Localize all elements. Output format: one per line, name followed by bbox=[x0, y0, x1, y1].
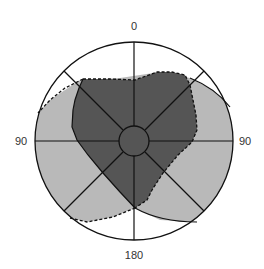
label-right: 90 bbox=[239, 135, 251, 147]
polar-diagram: 0 180 90 90 bbox=[0, 0, 264, 269]
center-circle bbox=[119, 126, 149, 156]
label-bottom: 180 bbox=[125, 249, 143, 261]
label-top: 0 bbox=[131, 20, 137, 32]
label-left: 90 bbox=[15, 135, 27, 147]
